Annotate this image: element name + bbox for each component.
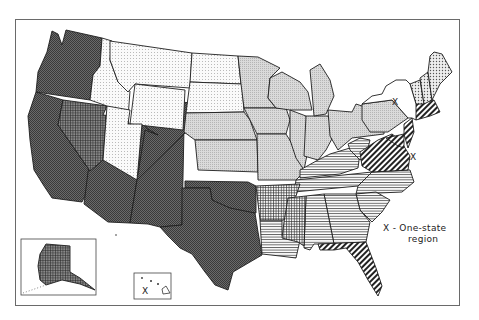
alaska-inset	[21, 239, 96, 295]
marker-delaware: X	[410, 152, 416, 162]
legend-line2: region	[408, 234, 438, 245]
marker-new-york: X	[392, 97, 398, 107]
hawaii-inset	[134, 273, 171, 299]
legend-line1: X - One-state	[383, 223, 446, 234]
region-northern-new-england	[410, 52, 452, 104]
us-map	[0, 0, 479, 320]
marker-hawaii: X	[142, 286, 148, 296]
